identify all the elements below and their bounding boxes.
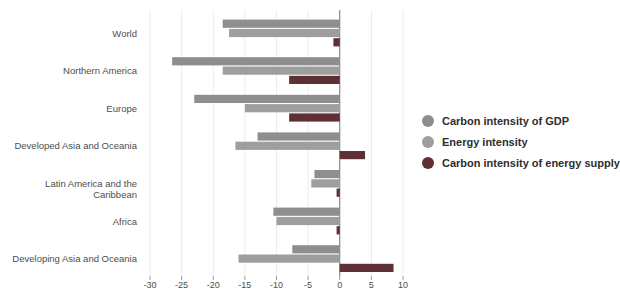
legend-marker-gdp-icon xyxy=(422,115,434,127)
legend-item-energy-intensity: Energy intensity xyxy=(422,136,620,148)
legend-item-carbon-intensity-gdp: Carbon intensity of GDP xyxy=(422,115,620,127)
category-label: Europe xyxy=(0,103,137,114)
x-tick-label: -25 xyxy=(175,280,188,290)
bar-supply-1 xyxy=(289,76,340,84)
bar-energy-1 xyxy=(223,67,340,75)
x-tick-label: -5 xyxy=(304,280,312,290)
bar-energy-6 xyxy=(239,255,340,263)
x-tick-label: 5 xyxy=(369,280,374,290)
bar-gdp-1 xyxy=(172,57,340,65)
bar-gdp-3 xyxy=(258,132,340,140)
bar-energy-3 xyxy=(235,142,339,150)
legend-marker-supply-icon xyxy=(422,157,434,169)
bar-supply-0 xyxy=(333,38,339,46)
bar-energy-0 xyxy=(229,29,340,37)
bar-supply-2 xyxy=(289,113,340,121)
bar-gdp-5 xyxy=(273,208,339,216)
category-label: Developing Asia and Oceania xyxy=(0,253,137,264)
legend: Carbon intensity of GDP Energy intensity… xyxy=(422,115,620,169)
category-label: Latin America and the Caribbean xyxy=(0,178,137,200)
bar-energy-2 xyxy=(245,104,340,112)
category-label: Northern America xyxy=(0,65,137,76)
bar-supply-3 xyxy=(340,151,365,159)
bar-supply-6 xyxy=(340,264,394,272)
x-tick-label: -15 xyxy=(238,280,251,290)
bar-gdp-6 xyxy=(292,245,339,253)
bar-supply-4 xyxy=(337,189,340,197)
bar-gdp-2 xyxy=(194,95,339,103)
category-label: World xyxy=(0,28,137,39)
category-label: Africa xyxy=(0,216,137,227)
bar-energy-5 xyxy=(277,217,340,225)
bar-energy-4 xyxy=(311,179,339,187)
bar-gdp-4 xyxy=(314,170,339,178)
legend-label: Carbon intensity of GDP xyxy=(442,115,569,127)
x-tick-label: 10 xyxy=(398,280,408,290)
x-tick-label: 0 xyxy=(337,280,342,290)
bar-gdp-0 xyxy=(223,20,340,28)
x-tick-label: -10 xyxy=(270,280,283,290)
legend-label: Energy intensity xyxy=(442,136,528,148)
legend-marker-energy-icon xyxy=(422,136,434,148)
legend-label: Carbon intensity of energy supply xyxy=(442,157,620,169)
x-tick-label: -20 xyxy=(207,280,220,290)
bar-supply-5 xyxy=(337,226,340,234)
category-label: Developed Asia and Oceania xyxy=(0,140,137,151)
x-tick-label: -30 xyxy=(143,280,156,290)
legend-item-carbon-intensity-supply: Carbon intensity of energy supply xyxy=(422,157,620,169)
